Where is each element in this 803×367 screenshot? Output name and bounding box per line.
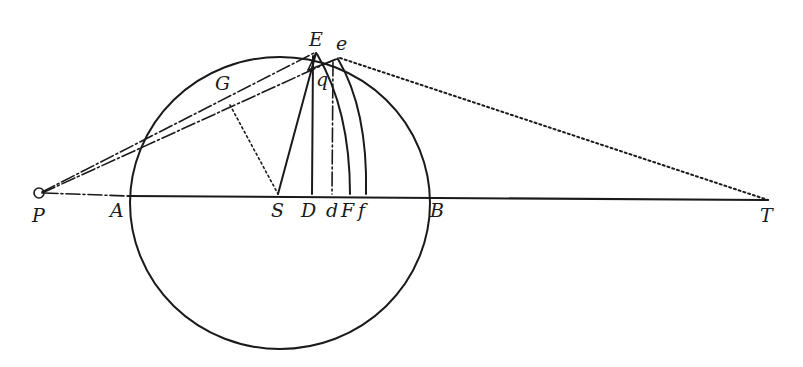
label-S: S: [271, 199, 284, 221]
label-d: d: [326, 199, 338, 221]
label-B: B: [429, 199, 444, 221]
line-Pe: [42, 58, 338, 193]
label-D: D: [300, 199, 316, 221]
line-PE: [42, 52, 316, 192]
line-ED: [312, 56, 313, 194]
label-E: E: [308, 28, 323, 50]
axis-line-PA: [44, 193, 128, 196]
line-eT: [340, 58, 768, 200]
geometry-figure: P A S D d F f B T E e G q: [0, 0, 803, 367]
label-G: G: [215, 72, 230, 94]
label-F: F: [340, 199, 355, 221]
label-q: q: [316, 68, 328, 90]
label-e: e: [336, 32, 347, 54]
label-A: A: [108, 199, 124, 221]
axis-line-AT: [128, 196, 768, 200]
line-SE: [278, 53, 316, 194]
line-GS: [230, 105, 278, 194]
label-f: f: [356, 199, 368, 221]
label-P: P: [31, 204, 46, 226]
arc-ef: [338, 59, 366, 194]
label-T: T: [760, 204, 774, 226]
line-ed: [332, 62, 333, 194]
